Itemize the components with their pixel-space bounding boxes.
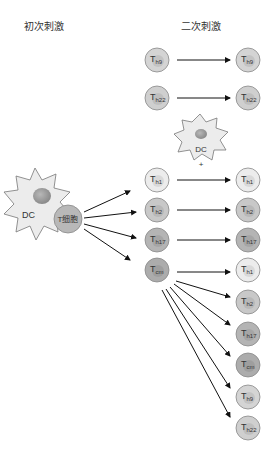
left-th9-cell: Th9 bbox=[145, 48, 169, 72]
left-th22-cell: Th22 bbox=[145, 86, 169, 110]
right-th2-cell: Th2 bbox=[236, 198, 260, 222]
right-th9-cell: Th9 bbox=[236, 385, 260, 409]
primary-differentiation-arrows bbox=[84, 191, 136, 260]
primary-t-cell: T细胞 bbox=[54, 205, 82, 233]
right-th9-cell: Th9 bbox=[236, 48, 260, 72]
primary-dc-label: DC bbox=[22, 210, 35, 220]
right-cell-column: Th9Th22Th1Th2Th17Th1Th2Th17TcmTh9Th22 bbox=[236, 48, 260, 440]
t-cell-label: T细胞 bbox=[58, 214, 79, 224]
right-th17-cell: Th17 bbox=[236, 228, 260, 252]
secondary-dc-label: DC bbox=[195, 145, 207, 154]
plus-sign: + bbox=[199, 160, 204, 169]
diagram-canvas: DC T细胞 DC + Th9Th22Th1Th2Th17Tcm Th9Th22… bbox=[0, 0, 273, 450]
left-cell-column: Th9Th22Th1Th2Th17Tcm bbox=[145, 48, 169, 282]
right-th22-cell: Th22 bbox=[236, 86, 260, 110]
right-th22-cell: Th22 bbox=[236, 416, 260, 440]
left-th1-cell: Th1 bbox=[145, 168, 169, 192]
left-th17-cell: Th17 bbox=[145, 228, 169, 252]
right-th1-cell: Th1 bbox=[236, 168, 260, 192]
right-th2-cell: Th2 bbox=[236, 290, 260, 314]
left-th2-cell: Th2 bbox=[145, 198, 169, 222]
left-tcm-cell: Tcm bbox=[145, 258, 169, 282]
memory-cell-fan-arrows bbox=[162, 281, 230, 417]
secondary-dendritic-cell: DC + bbox=[174, 114, 228, 169]
right-th1-cell: Th1 bbox=[236, 258, 260, 282]
right-th17-cell: Th17 bbox=[236, 322, 260, 346]
right-tcm-cell: Tcm bbox=[236, 353, 260, 377]
secondary-arrows bbox=[177, 60, 230, 272]
